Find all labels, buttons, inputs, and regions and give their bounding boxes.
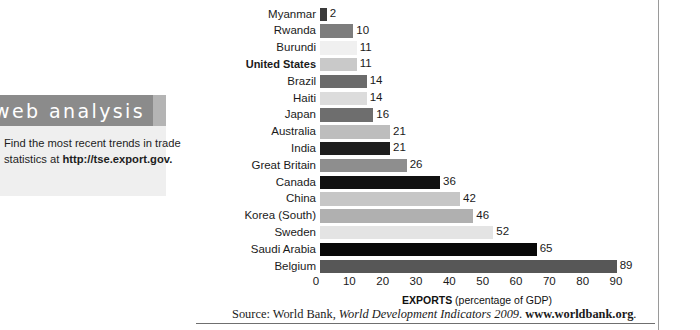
- x-axis-tick: 60: [510, 276, 523, 288]
- bar-row: United States11: [232, 56, 652, 73]
- bar-fill: [320, 125, 390, 138]
- bar-fill: [320, 260, 617, 273]
- bar-row: Rwanda10: [232, 23, 652, 40]
- bar-row: Korea (South)46: [232, 208, 652, 225]
- x-axis-title-rest: (percentage of GDP): [452, 294, 552, 306]
- source-prefix: Source: World Bank,: [232, 307, 339, 321]
- source-citation: Source: World Bank, World Development In…: [232, 307, 636, 322]
- x-axis: 0102030405060708090: [316, 275, 652, 291]
- bar-label: Brazil: [232, 76, 320, 88]
- exports-bar-chart: Myanmar2Rwanda10Burundi11United States11…: [232, 6, 652, 306]
- bar-track: 2: [320, 6, 652, 23]
- source-suffix: .: [633, 307, 636, 321]
- bar-value-label: 42: [463, 193, 476, 205]
- bar-value-label: 10: [356, 25, 369, 37]
- bar-track: 11: [320, 40, 652, 57]
- x-axis-wrapper: 0102030405060708090: [232, 275, 652, 291]
- bar-fill: [320, 108, 373, 121]
- bar-row: Japan16: [232, 107, 652, 124]
- source-url[interactable]: www.worldbank.org: [525, 307, 633, 321]
- bar-value-label: 21: [393, 126, 406, 138]
- web-analysis-text-line-2: statistics at http://tse.export.gov.: [4, 152, 158, 168]
- bar-value-label: 36: [443, 176, 456, 188]
- bar-row: China42: [232, 191, 652, 208]
- x-axis-tick: 70: [543, 276, 556, 288]
- bar-fill: [320, 192, 460, 205]
- bar-row: Great Britain26: [232, 157, 652, 174]
- bar-row: Haiti14: [232, 90, 652, 107]
- bar-fill: [320, 243, 537, 256]
- bar-value-label: 14: [370, 92, 383, 104]
- bar-label: United States: [232, 59, 320, 70]
- bar-track: 14: [320, 73, 652, 90]
- bar-fill: [320, 8, 327, 21]
- bar-fill: [320, 142, 390, 155]
- bar-track: 11: [320, 56, 652, 73]
- bar-track: 36: [320, 174, 652, 191]
- bar-rows-container: Myanmar2Rwanda10Burundi11United States11…: [232, 6, 652, 275]
- bar-label: Rwanda: [232, 25, 320, 37]
- x-axis-title: EXPORTS (percentage of GDP): [232, 294, 652, 306]
- bar-label: Australia: [232, 126, 320, 138]
- bar-fill: [320, 92, 367, 105]
- bar-row: Myanmar2: [232, 6, 652, 23]
- bar-value-label: 2: [330, 8, 336, 20]
- bar-label: Haiti: [232, 93, 320, 105]
- x-axis-title-strong: EXPORTS: [402, 294, 452, 306]
- bar-label: Myanmar: [232, 9, 320, 21]
- bar-row: Burundi11: [232, 40, 652, 57]
- bar-label: Saudi Arabia: [232, 244, 320, 256]
- x-axis-tick: 30: [410, 276, 423, 288]
- source-publication: World Development Indicators 2009: [339, 307, 519, 321]
- web-analysis-banner: web analysis: [0, 95, 166, 126]
- bar-label: Belgium: [232, 261, 320, 273]
- bar-value-label: 21: [393, 142, 406, 154]
- bar-label: Great Britain: [232, 160, 320, 172]
- x-axis-tick: 50: [476, 276, 489, 288]
- bar-fill: [320, 159, 407, 172]
- bar-row: India21: [232, 140, 652, 157]
- web-analysis-text-prefix: statistics at: [4, 153, 62, 165]
- bar-row: Canada36: [232, 174, 652, 191]
- bar-row: Sweden52: [232, 224, 652, 241]
- bar-row: Australia21: [232, 124, 652, 141]
- bar-label: Sweden: [232, 227, 320, 239]
- bar-fill: [320, 24, 353, 37]
- bar-fill: [320, 58, 357, 71]
- bar-value-label: 16: [376, 109, 389, 121]
- bar-value-label: 11: [360, 58, 372, 70]
- bar-value-label: 11: [360, 42, 372, 54]
- bar-track: 42: [320, 191, 652, 208]
- bar-fill: [320, 176, 440, 189]
- source-divider-rule: [196, 323, 655, 324]
- bar-value-label: 26: [410, 159, 423, 171]
- web-analysis-text-line-1: Find the most recent trends in trade: [4, 136, 158, 152]
- bar-fill: [320, 75, 367, 88]
- x-axis-tick: 80: [576, 276, 589, 288]
- x-axis-tick: 10: [343, 276, 356, 288]
- bar-label: China: [232, 193, 320, 205]
- x-axis-tick: 0: [313, 276, 319, 288]
- bar-fill: [320, 226, 493, 239]
- x-axis-tick: 20: [376, 276, 389, 288]
- axis-spacer: [232, 275, 316, 291]
- bar-label: Korea (South): [232, 210, 320, 222]
- web-analysis-body: Find the most recent trends in trade sta…: [0, 126, 166, 196]
- bar-value-label: 14: [370, 75, 383, 87]
- bar-label: Burundi: [232, 42, 320, 54]
- bar-label: Canada: [232, 177, 320, 189]
- bar-value-label: 89: [620, 260, 633, 272]
- bar-row: Belgium89: [232, 258, 652, 275]
- web-analysis-link[interactable]: http://tse.export.gov.: [62, 153, 172, 165]
- x-axis-tick: 90: [610, 276, 623, 288]
- bar-track: 14: [320, 90, 652, 107]
- bar-track: 52: [320, 224, 652, 241]
- page-vertical-rule: [658, 0, 659, 330]
- bar-track: 21: [320, 140, 652, 157]
- bar-label: Japan: [232, 109, 320, 121]
- bar-row: Brazil14: [232, 73, 652, 90]
- bar-track: 10: [320, 23, 652, 40]
- bar-value-label: 65: [540, 243, 553, 255]
- web-analysis-banner-tab: [153, 95, 166, 126]
- bar-track: 89: [320, 258, 652, 275]
